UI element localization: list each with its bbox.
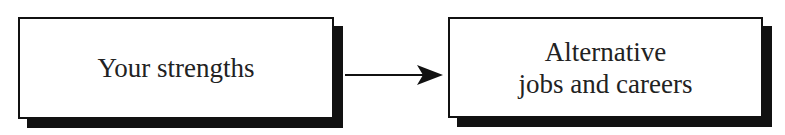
arrow-icon	[345, 63, 445, 87]
node-label-line1: Alternative	[519, 36, 693, 68]
node-your-strengths: Your strengths	[18, 17, 334, 119]
node-alternative-jobs: Alternative jobs and careers	[448, 17, 763, 118]
node-label: Your strengths	[97, 52, 254, 84]
node-label-line2: jobs and careers	[519, 68, 693, 100]
